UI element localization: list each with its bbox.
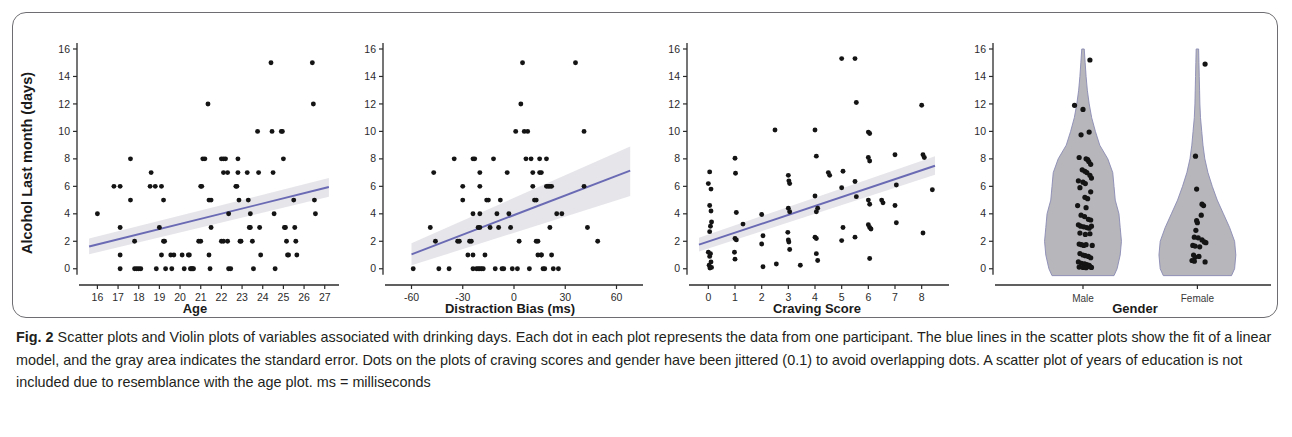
svg-text:4: 4: [980, 207, 986, 219]
x-axis-title-craving: Craving Score: [773, 301, 861, 316]
svg-text:10: 10: [668, 125, 680, 137]
svg-text:0: 0: [705, 291, 711, 303]
figure-caption-text: Scatter plots and Violin plots of variab…: [16, 329, 1271, 390]
x-axis-title-age: Age: [183, 301, 208, 316]
svg-text:18: 18: [133, 291, 145, 303]
y-axis-title: Alcohol Last month (days): [19, 72, 35, 254]
x-axis-title-gender: Gender: [1112, 301, 1158, 316]
svg-text:7: 7: [892, 291, 898, 303]
figure-caption: Fig. 2 Scatter plots and Violin plots of…: [16, 326, 1278, 394]
svg-text:8: 8: [64, 152, 70, 164]
svg-text:2: 2: [64, 235, 70, 247]
svg-text:12: 12: [668, 98, 680, 110]
figure-label: Fig. 2: [16, 329, 54, 345]
svg-text:16: 16: [92, 291, 104, 303]
svg-text:2: 2: [674, 235, 680, 247]
craving-fit-line: [699, 166, 935, 245]
svg-text:0: 0: [980, 262, 986, 274]
svg-text:19: 19: [154, 291, 166, 303]
age-fit-line: [89, 187, 329, 246]
svg-text:12: 12: [974, 98, 986, 110]
craving-data-points: [706, 56, 935, 270]
svg-text:12: 12: [58, 98, 70, 110]
craving-scatter-svg: 0246810121416012345678 Craving Score: [647, 13, 953, 319]
svg-text:8: 8: [919, 291, 925, 303]
svg-text:16: 16: [58, 43, 70, 55]
category-label-male: Male: [1072, 293, 1094, 304]
svg-text:8: 8: [370, 152, 376, 164]
svg-text:6: 6: [865, 291, 871, 303]
svg-text:27: 27: [319, 291, 331, 303]
svg-text:6: 6: [980, 180, 986, 192]
chart-panel-gender: 0246810121416 Male Female Gender: [953, 13, 1275, 319]
svg-text:8: 8: [980, 152, 986, 164]
svg-text:10: 10: [58, 125, 70, 137]
svg-text:2: 2: [980, 235, 986, 247]
svg-text:14: 14: [668, 70, 680, 82]
svg-text:0: 0: [674, 262, 680, 274]
figure-panel-box: 0246810121416161718192021222324252627 Al…: [12, 12, 1278, 318]
svg-text:6: 6: [674, 180, 680, 192]
svg-text:22: 22: [216, 291, 228, 303]
bias-scatter-svg: 0246810121416-60-3003060 Distraction Bia…: [345, 13, 647, 319]
svg-text:2: 2: [759, 291, 765, 303]
svg-text:14: 14: [58, 70, 70, 82]
svg-text:14: 14: [974, 70, 986, 82]
svg-text:16: 16: [364, 43, 376, 55]
svg-text:0: 0: [64, 262, 70, 274]
chart-panel-distraction-bias: 0246810121416-60-3003060 Distraction Bia…: [345, 13, 647, 319]
svg-text:1: 1: [732, 291, 738, 303]
svg-text:60: 60: [611, 291, 623, 303]
age-scatter-svg: 0246810121416161718192021222324252627 Al…: [15, 13, 345, 319]
svg-text:25: 25: [278, 291, 290, 303]
chart-panel-age: 0246810121416161718192021222324252627 Al…: [15, 13, 345, 319]
bias-se-band: [412, 147, 631, 266]
svg-text:10: 10: [364, 125, 376, 137]
svg-text:4: 4: [64, 207, 70, 219]
age-axes: 0246810121416161718192021222324252627: [58, 43, 339, 303]
svg-text:14: 14: [364, 70, 376, 82]
svg-text:4: 4: [370, 207, 376, 219]
svg-text:23: 23: [236, 291, 248, 303]
svg-text:16: 16: [668, 43, 680, 55]
x-axis-title-distraction-bias: Distraction Bias (ms): [445, 301, 575, 316]
svg-text:12: 12: [364, 98, 376, 110]
svg-text:6: 6: [370, 180, 376, 192]
svg-text:6: 6: [64, 180, 70, 192]
svg-text:17: 17: [112, 291, 124, 303]
svg-text:24: 24: [257, 291, 269, 303]
svg-text:10: 10: [974, 125, 986, 137]
chart-panel-craving: 0246810121416012345678 Craving Score: [647, 13, 953, 319]
gender-violin-svg: 0246810121416 Male Female Gender: [953, 13, 1275, 319]
svg-text:4: 4: [674, 207, 680, 219]
svg-text:-60: -60: [404, 291, 419, 303]
svg-text:0: 0: [370, 262, 376, 274]
svg-text:26: 26: [298, 291, 310, 303]
category-label-female: Female: [1181, 293, 1215, 304]
svg-text:2: 2: [370, 235, 376, 247]
svg-text:8: 8: [674, 152, 680, 164]
svg-text:16: 16: [974, 43, 986, 55]
